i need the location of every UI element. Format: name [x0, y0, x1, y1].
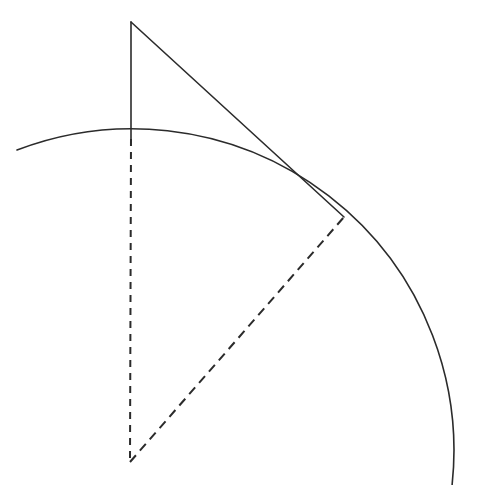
figure-canvas [0, 0, 486, 485]
geometry-diagram [0, 0, 486, 485]
vertical-dashed-segment [130, 139, 131, 462]
circular-arc [17, 129, 454, 485]
radius-dashed-segment [130, 217, 344, 462]
tangent-line [131, 22, 344, 217]
